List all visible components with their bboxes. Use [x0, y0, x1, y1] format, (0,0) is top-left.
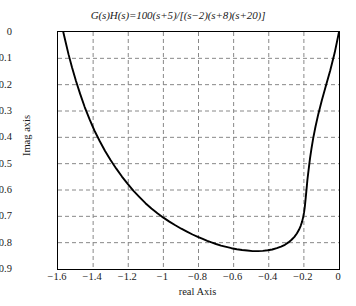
nyquist-curve — [58, 32, 339, 269]
nyquist-plot-figure: G(s)H(s)=100(s+5)/[(s−2)(s+8)(s+20)] 0−0… — [0, 0, 356, 306]
x-axis-tick-label: −1.2 — [118, 271, 137, 282]
plot-area — [57, 31, 340, 270]
x-axis-tick-label: −0.6 — [223, 271, 242, 282]
y-axis-tick-label: −0.4 — [0, 131, 12, 142]
x-axis-tick-label: −1.4 — [83, 271, 102, 282]
x-axis-label: real Axis — [57, 286, 338, 297]
x-axis-tick-label: −0.4 — [258, 271, 277, 282]
y-axis-tick-label: 0 — [7, 26, 12, 37]
x-axis-tick-label: −0.2 — [293, 271, 312, 282]
chart-title-h: H — [110, 9, 118, 21]
y-axis-tick-label: −0.6 — [0, 184, 12, 195]
chart-title: G(s)H(s)=100(s+5)/[(s−2)(s+8)(s+20)] — [0, 9, 356, 21]
y-axis-tick-label: −0.2 — [0, 78, 12, 89]
x-axis-tick-label: −1 — [157, 271, 168, 282]
y-axis-tick-label: −0.7 — [0, 210, 12, 221]
chart-title-s2: (s) — [118, 9, 129, 21]
y-axis-tick-label: −0.5 — [0, 157, 12, 168]
y-axis-tick-label: −0.8 — [0, 236, 12, 247]
y-axis-label: Imag axis — [21, 91, 32, 181]
chart-title-s1: (s) — [99, 9, 110, 21]
chart-title-g: G — [91, 9, 99, 21]
y-axis-tick-label: −0.3 — [0, 105, 12, 116]
x-axis-tick-label: −1.6 — [47, 271, 66, 282]
data-series-line — [63, 32, 339, 251]
chart-title-expression: =100(s+5)/[(s−2)(s+8)(s+20)] — [129, 9, 265, 21]
y-axis-tick-label: −0.9 — [0, 263, 12, 274]
x-axis-tick-label: 0 — [335, 271, 340, 282]
y-axis-tick-label: −0.1 — [0, 52, 12, 63]
x-axis-tick-label: −0.8 — [188, 271, 207, 282]
